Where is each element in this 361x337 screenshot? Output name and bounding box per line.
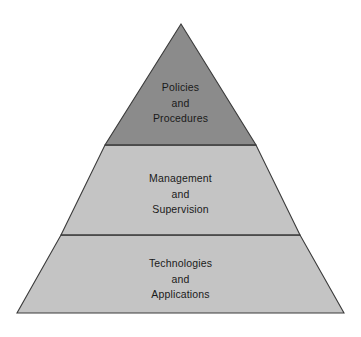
tier-label-technologies-and-applications: Technologies and Applications — [0, 256, 361, 303]
tier-label-management-and-supervision: Management and Supervision — [0, 171, 361, 218]
tier-label-line-2: and — [0, 272, 361, 288]
tier-label-line-3: Procedures — [0, 111, 361, 127]
tier-label-line-1: Management — [0, 171, 361, 187]
tier-label-policies-and-procedures: Policies and Procedures — [0, 80, 361, 127]
tier-label-line-3: Applications — [0, 287, 361, 303]
tier-label-line-2: and — [0, 96, 361, 112]
tier-label-line-3: Supervision — [0, 202, 361, 218]
pyramid-diagram: Policies and Procedures Management and S… — [0, 0, 361, 337]
tier-label-line-1: Technologies — [0, 256, 361, 272]
tier-label-line-2: and — [0, 187, 361, 203]
tier-label-line-1: Policies — [0, 80, 361, 96]
